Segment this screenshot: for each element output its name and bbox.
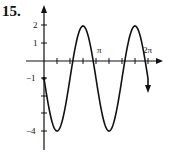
- y-axis-arrow-icon: [41, 5, 47, 13]
- x-label-pi: π: [97, 45, 102, 55]
- x-axis-arrow-icon: [156, 58, 163, 64]
- curve-line: [44, 26, 148, 131]
- y-label-1: 1: [33, 38, 38, 48]
- curve-end-arrow-icon: [145, 85, 151, 93]
- curve-start-point: [42, 77, 46, 81]
- y-label-neg1: −1: [26, 73, 36, 83]
- y-label-neg4: −4: [26, 126, 36, 136]
- sine-graph: 2 1 −1 −4 π 2π: [0, 0, 182, 161]
- y-label-2: 2: [33, 20, 38, 30]
